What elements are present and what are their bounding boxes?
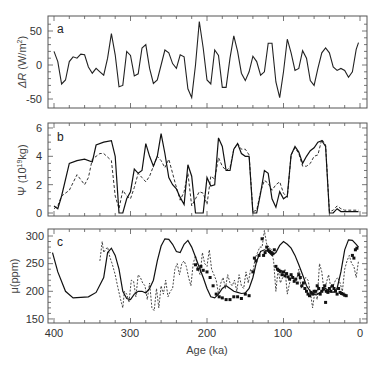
- data-marker: [274, 265, 277, 268]
- data-marker: [314, 290, 317, 293]
- data-marker: [273, 248, 276, 251]
- panel-a-ytick: 0: [36, 59, 42, 71]
- x-tick: 400: [45, 327, 63, 339]
- data-marker: [248, 294, 251, 297]
- data-marker: [299, 276, 302, 279]
- insolation-line: [54, 22, 359, 98]
- data-marker: [296, 282, 299, 285]
- data-marker: [279, 270, 282, 273]
- data-marker: [300, 284, 303, 287]
- data-marker: [303, 287, 306, 290]
- x-tick: 100: [274, 327, 292, 339]
- data-marker: [221, 296, 224, 299]
- figure: a 50 0 -50 ΔR (W/m2) b 6 4 2 0 Ψ (1019kg…: [0, 0, 383, 369]
- x-axis: 400 300 200 100 0 Age (ka): [45, 327, 363, 356]
- data-marker: [294, 278, 297, 281]
- data-marker: [302, 282, 305, 285]
- data-marker: [282, 270, 285, 273]
- panel-a-label: a: [57, 22, 64, 36]
- data-marker: [291, 276, 294, 279]
- panel-a: a 50 0 -50 ΔR (W/m2): [16, 16, 367, 108]
- x-tick: 300: [121, 327, 139, 339]
- panel-c-ytick: 250: [26, 257, 44, 269]
- data-marker: [253, 257, 256, 260]
- data-marker: [288, 278, 291, 281]
- data-marker: [328, 287, 331, 290]
- x-tick: 0: [357, 327, 363, 339]
- panel-b-ytick: 0: [36, 207, 42, 219]
- data-marker: [333, 287, 336, 290]
- data-marker: [308, 294, 311, 297]
- data-marker: [240, 297, 243, 300]
- data-marker: [212, 284, 215, 287]
- data-marker: [196, 268, 199, 271]
- data-marker: [324, 301, 327, 304]
- data-marker: [316, 284, 319, 287]
- data-marker: [229, 298, 232, 301]
- panel-c-ytick: 300: [26, 230, 44, 242]
- panel-c-label: c: [57, 235, 63, 249]
- data-marker: [281, 273, 284, 276]
- panel-c-ytick: 200: [26, 285, 44, 297]
- panel-a-ytick: -50: [26, 93, 42, 105]
- data-marker: [265, 246, 268, 249]
- panel-b-ytick: 2: [36, 179, 42, 191]
- panel-c-ytick: 150: [26, 313, 44, 325]
- data-marker: [218, 295, 221, 298]
- panel-b-ytick: 4: [36, 150, 42, 162]
- panel-b-ytick: 6: [36, 122, 42, 134]
- data-marker: [262, 254, 265, 257]
- data-marker: [290, 273, 293, 276]
- data-marker: [351, 254, 354, 257]
- data-marker: [236, 295, 239, 298]
- data-marker: [194, 263, 197, 266]
- data-marker: [202, 269, 205, 272]
- panel-b-label: b: [57, 130, 64, 144]
- ice-volume-dashed-line: [54, 139, 359, 211]
- data-marker: [352, 257, 355, 260]
- data-marker: [305, 290, 308, 293]
- data-marker: [264, 251, 267, 254]
- panel-c-ylabel: μ(ppm): [8, 258, 20, 293]
- data-marker: [323, 284, 326, 287]
- x-axis-label: Age (ka): [186, 344, 228, 356]
- x-tick: 200: [198, 327, 216, 339]
- data-marker: [225, 298, 228, 301]
- data-marker: [209, 276, 212, 279]
- data-marker: [206, 270, 209, 273]
- panel-b: b 6 4 2 0 Ψ (1019kg): [16, 122, 367, 219]
- data-marker: [336, 293, 339, 296]
- data-marker: [331, 284, 334, 287]
- panel-a-ytick: 50: [30, 25, 42, 37]
- data-marker: [297, 273, 300, 276]
- data-marker: [285, 272, 288, 275]
- data-marker: [317, 287, 320, 290]
- panel-a-ylabel: ΔR (W/m2): [16, 36, 28, 89]
- data-marker: [261, 237, 264, 240]
- panel-b-ylabel: Ψ (1019kg): [16, 144, 28, 195]
- data-marker: [345, 294, 348, 297]
- data-marker: [232, 295, 235, 298]
- panel-c: c 300 250 200 150 μ(ppm): [8, 229, 367, 325]
